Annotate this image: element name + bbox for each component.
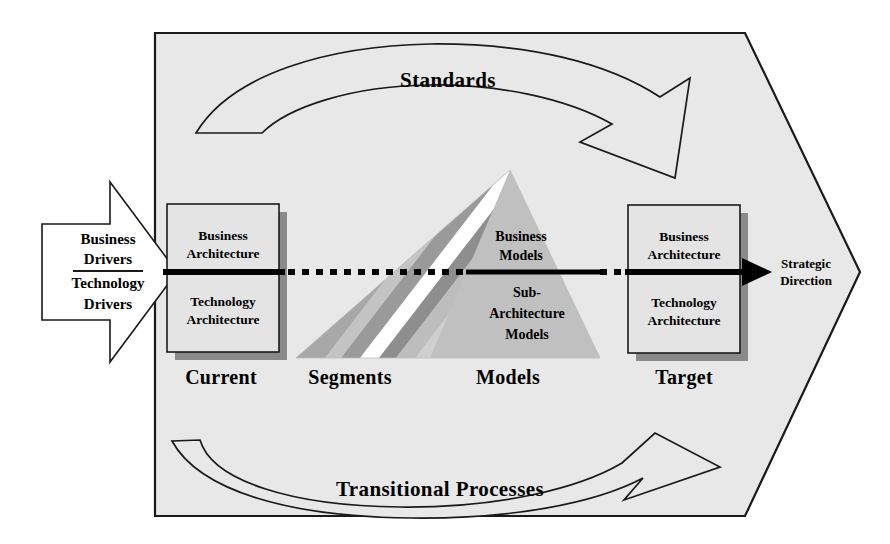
target-business-architecture-line1: Business: [659, 229, 709, 244]
target-box: [628, 205, 740, 353]
stage-label-segments: Segments: [308, 366, 392, 389]
current-box: [167, 204, 279, 352]
current-business-architecture-line1: Business: [198, 228, 248, 243]
standards-band-label: Standards: [400, 68, 496, 92]
strategic-direction-line2: Direction: [780, 273, 833, 288]
triangle-sub-architecture-line3: Models: [505, 327, 549, 342]
triangle-business-models-line2: Models: [499, 248, 543, 263]
triangle-sub-architecture-line2: Architecture: [489, 306, 565, 321]
target-technology-architecture-line1: Technology: [651, 295, 717, 310]
drivers-technology-line2: Drivers: [84, 296, 132, 312]
current-technology-architecture-line1: Technology: [190, 294, 256, 309]
strategic-direction-line1: Strategic: [781, 256, 831, 271]
current-business-architecture-line2: Architecture: [187, 246, 260, 261]
drivers-technology-line1: Technology: [72, 275, 145, 291]
triangle-sub-architecture-line1: Sub-: [513, 285, 541, 300]
triangle-business-models-line1: Business: [495, 229, 547, 244]
stage-label-current: Current: [185, 366, 257, 388]
stage-label-target: Target: [655, 366, 713, 389]
diagram-canvas: Business Drivers Technology Drivers Stan…: [0, 0, 890, 544]
stage-label-models: Models: [476, 366, 540, 388]
transitional-processes-band-label: Transitional Processes: [336, 477, 544, 501]
architecture-framework-diagram: Business Drivers Technology Drivers Stan…: [0, 0, 890, 544]
drivers-business-line2: Drivers: [84, 251, 132, 267]
target-technology-architecture-line2: Architecture: [648, 313, 721, 328]
drivers-business-line1: Business: [80, 231, 135, 247]
target-business-architecture-line2: Architecture: [648, 247, 721, 262]
current-technology-architecture-line2: Architecture: [187, 312, 260, 327]
